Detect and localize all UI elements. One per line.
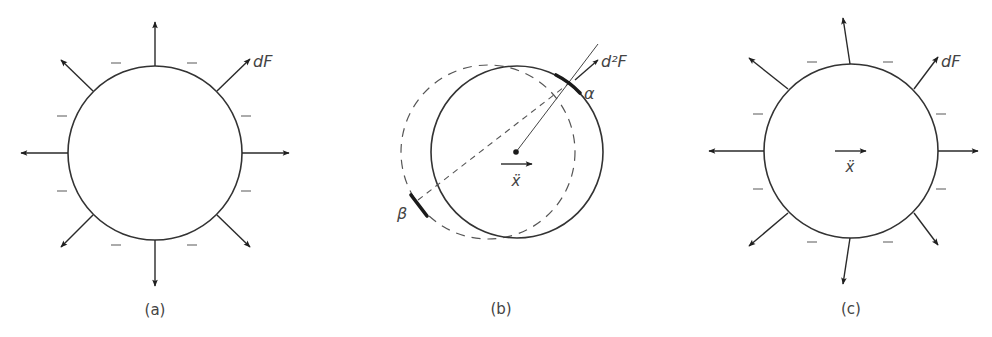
alpha-label: α <box>584 84 595 103</box>
panel-c: ẍ dF (c) <box>709 18 978 318</box>
caption-a: (a) <box>145 301 166 319</box>
acceleration-label-c: ẍ <box>845 158 855 176</box>
force-arrow-c-upright <box>914 57 938 89</box>
beta-alpha-connector <box>418 84 568 200</box>
force-label-a: dF <box>253 52 273 71</box>
force-arrow-c-down <box>843 238 850 284</box>
panel-a: dF (a) <box>21 22 289 319</box>
force-arrows-a <box>21 22 289 286</box>
force-arrow-a-upright <box>217 59 250 91</box>
panel-b: ẍ d²F α β (b) <box>396 44 628 318</box>
previous-position-dashed-sphere <box>401 65 575 239</box>
force-arrow-a-downright <box>217 215 250 247</box>
force-label-b: d²F <box>601 52 628 71</box>
force-arrow-a-upleft <box>61 60 93 91</box>
force-arrow-c-downright <box>914 213 938 245</box>
caption-c: (c) <box>841 300 861 318</box>
force-label-c: dF <box>941 52 961 71</box>
force-arrow-c-downleft <box>749 213 788 246</box>
beta-label: β <box>396 204 407 223</box>
force-arrow-c-upleft <box>749 58 788 89</box>
force-arrow-a-downleft <box>61 215 93 247</box>
figure-canvas: dF (a) ẍ d²F α β (b) <box>0 0 992 337</box>
center-point <box>513 149 519 155</box>
acceleration-label-b: ẍ <box>511 172 521 190</box>
sphere-a <box>68 66 242 240</box>
charge-marks-a <box>57 63 251 245</box>
force-arrow-c-up <box>843 18 850 64</box>
surface-element-beta <box>411 195 427 216</box>
charge-marks-c <box>753 62 946 242</box>
caption-b: (b) <box>490 300 511 318</box>
